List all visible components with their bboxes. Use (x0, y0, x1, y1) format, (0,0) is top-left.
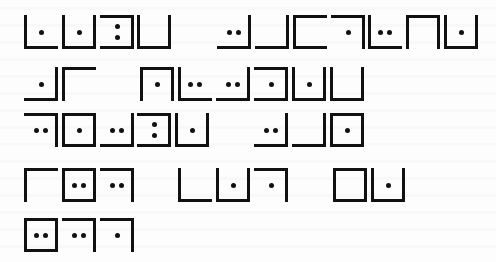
glyph-stroke (178, 67, 181, 101)
glyph-stroke (93, 168, 96, 202)
cipher-glyph-icon (217, 15, 251, 49)
glyph-stroke (137, 144, 171, 147)
glyph-stroke (217, 46, 251, 49)
glyph-stroke (330, 144, 364, 147)
glyph-stroke (100, 46, 134, 49)
cipher-glyph-icon (254, 113, 288, 147)
glyph-stroke (293, 15, 296, 49)
glyph-stroke (24, 249, 58, 252)
glyph-dot (190, 128, 195, 133)
glyph-stroke (62, 144, 96, 147)
cipher-glyph-icon (292, 67, 326, 101)
glyph-stroke (444, 15, 447, 49)
glyph-stroke (55, 113, 58, 147)
cipher-glyph-icon (175, 113, 209, 147)
glyph-stroke (285, 168, 288, 202)
glyph-stroke (137, 46, 171, 49)
glyph-stroke (406, 15, 409, 49)
glyph-stroke (62, 113, 96, 116)
glyph-stroke (131, 15, 134, 49)
cipher-glyph-icon (62, 113, 96, 147)
cipher-glyph-icon (406, 15, 440, 49)
glyph-dot (226, 82, 231, 87)
glyph-stroke (100, 168, 134, 171)
glyph-stroke (333, 168, 367, 171)
cipher-glyph-icon (255, 15, 289, 49)
cipher-glyph-icon (331, 15, 365, 49)
cipher-line-4 (0, 168, 496, 202)
glyph-stroke (293, 46, 327, 49)
glyph-stroke (93, 113, 96, 147)
glyph-stroke (216, 98, 250, 101)
glyph-dot (273, 128, 278, 133)
glyph-stroke (175, 113, 178, 147)
cipher-glyph-icon (178, 67, 212, 101)
glyph-dot (231, 183, 236, 188)
glyph-stroke (175, 144, 209, 147)
glyph-stroke (368, 15, 371, 49)
cipher-line-3 (0, 113, 496, 147)
glyph-stroke (323, 113, 326, 147)
cipher-glyph-icon (24, 113, 58, 147)
glyph-stroke (292, 98, 326, 101)
glyph-dot (152, 133, 157, 138)
glyph-stroke (137, 113, 171, 116)
glyph-stroke (330, 67, 333, 101)
glyph-stroke (24, 15, 27, 49)
glyph-stroke (131, 218, 134, 252)
glyph-dot (155, 82, 160, 87)
glyph-dot (119, 128, 124, 133)
cipher-glyph-icon (333, 168, 367, 202)
glyph-stroke (333, 199, 367, 202)
glyph-stroke (286, 15, 289, 49)
cipher-page (0, 0, 496, 262)
glyph-dot (72, 233, 77, 238)
glyph-dot (110, 183, 115, 188)
glyph-dot (81, 183, 86, 188)
glyph-stroke (330, 113, 333, 147)
glyph-dot (345, 128, 350, 133)
glyph-dot (235, 82, 240, 87)
glyph-dot (110, 128, 115, 133)
cipher-line-1 (0, 15, 496, 49)
cipher-glyph-icon (254, 67, 288, 101)
glyph-stroke (475, 15, 478, 49)
glyph-dot (72, 183, 77, 188)
glyph-stroke (100, 144, 134, 147)
glyph-stroke (24, 46, 58, 49)
glyph-dot (34, 233, 39, 238)
glyph-stroke (62, 67, 96, 70)
cipher-glyph-icon (444, 15, 478, 49)
cipher-line-5 (0, 218, 496, 252)
glyph-stroke (364, 168, 367, 202)
glyph-stroke (254, 98, 288, 101)
cipher-glyph-icon (62, 15, 96, 49)
glyph-stroke (330, 98, 364, 101)
glyph-stroke (140, 67, 143, 101)
glyph-stroke (62, 67, 65, 101)
cipher-line-2 (0, 67, 496, 101)
glyph-dot (39, 30, 44, 35)
glyph-dot (378, 30, 383, 35)
glyph-dot (459, 30, 464, 35)
glyph-stroke (254, 67, 288, 70)
glyph-dot (77, 30, 82, 35)
glyph-stroke (178, 98, 212, 101)
cipher-glyph-icon (100, 113, 134, 147)
cipher-glyph-icon (100, 168, 134, 202)
glyph-stroke (371, 199, 405, 202)
cipher-glyph-icon (24, 218, 58, 252)
glyph-stroke (292, 67, 295, 101)
glyph-stroke (24, 98, 58, 101)
glyph-stroke (247, 67, 250, 101)
glyph-stroke (323, 67, 326, 101)
glyph-stroke (368, 46, 402, 49)
glyph-stroke (62, 46, 96, 49)
glyph-dot (115, 24, 120, 29)
cipher-glyph-icon (24, 67, 58, 101)
cipher-glyph-icon (216, 168, 250, 202)
glyph-stroke (406, 15, 440, 18)
cipher-glyph-icon (137, 113, 171, 147)
glyph-stroke (137, 15, 140, 49)
glyph-stroke (361, 67, 364, 101)
